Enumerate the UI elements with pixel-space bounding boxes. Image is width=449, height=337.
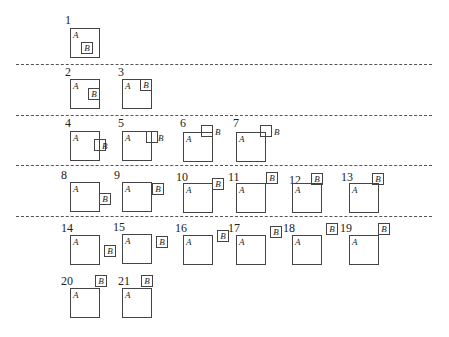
row-separator <box>16 165 432 166</box>
label-a: A <box>125 237 131 246</box>
box-b: B <box>212 178 224 190</box>
box-b: B <box>140 79 152 91</box>
box-b: B <box>201 125 213 137</box>
box-b: B <box>152 183 164 195</box>
box-b: B <box>88 88 100 100</box>
box-b: B <box>146 131 158 143</box>
box-b: B <box>266 172 278 184</box>
case-number: 8 <box>61 169 67 181</box>
box-b: B <box>326 223 338 235</box>
box-b: B <box>81 42 93 54</box>
label-a: A <box>73 31 79 40</box>
case-number: 15 <box>113 221 125 233</box>
label-a: A <box>295 238 301 247</box>
label-a: A <box>125 291 131 300</box>
case-number: 1 <box>65 14 71 26</box>
label-a: A <box>295 186 301 195</box>
label-a: A <box>125 82 131 91</box>
box-b: B <box>141 275 153 287</box>
case-number: 10 <box>176 171 188 183</box>
box-b: B <box>311 173 323 185</box>
case-number: 5 <box>118 117 124 129</box>
row-separator <box>16 216 432 217</box>
case-number: 2 <box>65 66 71 78</box>
case-number: 16 <box>175 222 187 234</box>
case-number: 17 <box>228 222 240 234</box>
case-number: 18 <box>283 222 295 234</box>
case-number: 3 <box>118 66 124 78</box>
case-number: 7 <box>233 117 239 129</box>
case-number: 21 <box>118 275 130 287</box>
case-number: 14 <box>61 222 73 234</box>
label-b: B <box>102 142 108 151</box>
label-b: B <box>215 128 221 137</box>
label-a: A <box>125 185 131 194</box>
label-a: A <box>352 186 358 195</box>
box-b: B <box>104 245 116 257</box>
box-b: B <box>156 236 168 248</box>
label-a: A <box>186 186 192 195</box>
case-number: 11 <box>228 171 240 183</box>
label-a: A <box>73 134 79 143</box>
label-a: A <box>352 238 358 247</box>
label-a: A <box>186 238 192 247</box>
case-number: 4 <box>65 117 71 129</box>
label-a: A <box>73 185 79 194</box>
case-number: 13 <box>341 171 353 183</box>
case-number: 9 <box>114 169 120 181</box>
label-b: B <box>274 128 280 137</box>
case-number: 19 <box>340 222 352 234</box>
label-a: A <box>239 135 245 144</box>
box-b: B <box>270 226 282 238</box>
box-b: B <box>95 275 107 287</box>
box-b: B <box>378 223 390 235</box>
box-b: B <box>99 193 111 205</box>
row-separator <box>16 115 432 116</box>
label-a: A <box>125 134 131 143</box>
row-separator <box>16 64 432 65</box>
label-a: A <box>73 291 79 300</box>
label-a: A <box>186 135 192 144</box>
case-number: 6 <box>180 117 186 129</box>
case-number: 20 <box>61 275 73 287</box>
label-a: A <box>239 238 245 247</box>
box-b: B <box>372 173 384 185</box>
label-a: A <box>73 82 79 91</box>
label-a: A <box>239 186 245 195</box>
label-b: B <box>158 134 164 143</box>
box-b: B <box>260 125 272 137</box>
label-a: A <box>73 238 79 247</box>
